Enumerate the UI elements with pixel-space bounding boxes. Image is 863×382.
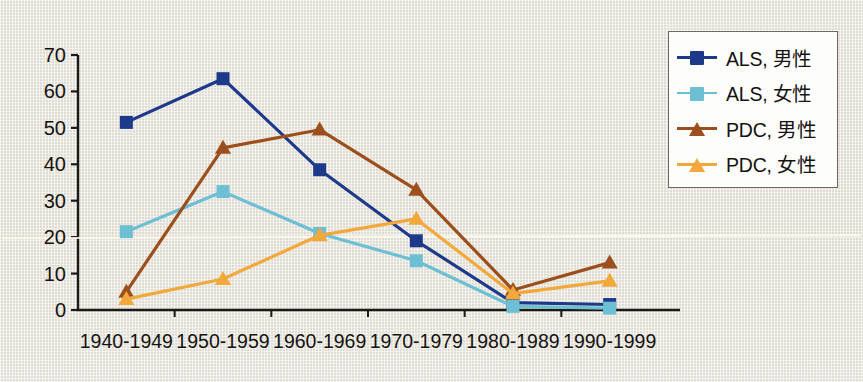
legend-label: ALS, 女性	[726, 78, 812, 107]
legend-item: ALS, 男性	[677, 40, 831, 74]
x-tick-label: 1960-1969	[273, 330, 366, 352]
chart-legend: ALS, 男性 ALS, 女性 PDC, 男性 PDC, 女性	[668, 31, 838, 188]
legend-swatch-pdc-female	[677, 154, 717, 174]
data-point-marker	[120, 225, 133, 238]
legend-label: ALS, 男性	[726, 43, 812, 72]
data-point-marker	[408, 182, 424, 196]
triangle-marker-icon	[689, 158, 705, 172]
data-point-marker	[602, 255, 618, 269]
data-series	[118, 72, 617, 314]
square-marker-icon	[690, 51, 704, 65]
data-point-marker	[410, 234, 423, 247]
data-point-marker	[217, 72, 230, 85]
y-tick-label: 0	[55, 299, 66, 321]
x-tick-label: 1950-1959	[176, 330, 269, 352]
data-point-marker	[410, 254, 423, 267]
y-tick-label: 40	[44, 153, 66, 175]
data-point-marker	[603, 302, 616, 315]
legend-label: PDC, 女性	[726, 149, 817, 178]
y-tick-label: 10	[44, 263, 66, 285]
y-axis-tick-labels: 010203040506070	[44, 44, 66, 321]
x-tick-label: 1970-1979	[370, 330, 463, 352]
data-point-marker	[602, 273, 618, 287]
legend-item: ALS, 女性	[677, 76, 831, 110]
data-point-marker	[408, 211, 424, 225]
legend-swatch-als-male	[677, 47, 717, 67]
x-axis-tick-labels: 1940-19491950-19591960-19691970-19791980…	[80, 330, 657, 352]
y-tick-label: 20	[44, 226, 66, 248]
legend-label: PDC, 男性	[726, 114, 817, 143]
y-tick-label: 30	[44, 190, 66, 212]
x-tick-label: 1980-1989	[466, 330, 559, 352]
x-tick-label: 1990-1999	[563, 330, 656, 352]
triangle-marker-icon	[689, 122, 705, 136]
square-marker-icon	[690, 87, 704, 101]
legend-swatch-als-female	[677, 83, 717, 103]
data-point-marker	[507, 300, 520, 313]
y-tick-label: 70	[44, 44, 66, 66]
x-tick-label: 1940-1949	[80, 330, 173, 352]
y-tick-label: 60	[44, 80, 66, 102]
data-point-marker	[217, 185, 230, 198]
chart-figure: 010203040506070 1940-19491950-19591960-1…	[0, 0, 863, 382]
data-point-marker	[312, 122, 328, 136]
data-point-marker	[313, 163, 326, 176]
legend-swatch-pdc-male	[677, 118, 717, 138]
legend-item: PDC, 男性	[677, 111, 831, 145]
legend-item: PDC, 女性	[677, 147, 831, 181]
data-point-marker	[120, 116, 133, 129]
y-tick-label: 50	[44, 117, 66, 139]
